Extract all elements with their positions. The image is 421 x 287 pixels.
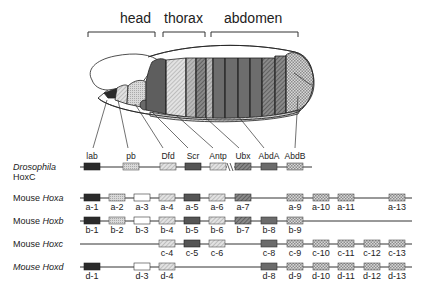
gene-label-a13: a-13 — [382, 202, 412, 212]
abdomen-bracket — [211, 32, 298, 37]
break-icon — [227, 163, 233, 171]
gene-label-a7: a-7 — [228, 202, 258, 212]
gene-label-lab: lab — [77, 151, 107, 161]
hox-diagram — [0, 0, 421, 287]
gene-box-pb — [123, 163, 139, 170]
row-label-hoxc: Mouse Hoxc — [13, 239, 63, 249]
gene-box-antp — [210, 163, 226, 170]
gene-box-dfd — [160, 163, 176, 170]
row-label-drosophila: Drosophila HoxC — [13, 162, 56, 182]
gene-label-d13: d-13 — [382, 271, 412, 281]
gene-box-scr — [185, 163, 201, 170]
row-label-hoxb: Mouse Hoxb — [13, 216, 64, 226]
gene-label-a11: a-11 — [331, 202, 361, 212]
gene-label-c13: c-13 — [382, 248, 412, 258]
region-label-thorax: thorax — [164, 10, 203, 26]
gene-label-d4: d-4 — [152, 271, 182, 281]
region-label-abdomen: abdomen — [224, 10, 282, 26]
row-label-hoxd: Mouse Hoxd — [13, 262, 64, 272]
embryo-illustration — [90, 45, 314, 121]
gene-label-b9: b-9 — [280, 225, 310, 235]
mouse-hoxa-cluster — [80, 194, 412, 201]
mouse-hoxb-cluster — [80, 217, 412, 224]
row-label-hoxa: Mouse Hoxa — [13, 193, 64, 203]
head-bracket — [88, 32, 155, 37]
gene-box-abdb — [287, 163, 303, 170]
thorax-bracket — [163, 32, 205, 37]
region-brackets — [88, 32, 298, 37]
region-label-head: head — [120, 10, 151, 26]
gene-box-ubx — [235, 163, 251, 170]
mouse-hoxc-cluster — [80, 240, 412, 247]
gene-label-pb: pb — [116, 151, 146, 161]
drosophila-hoxc-cluster — [80, 163, 312, 171]
gene-label-abdb: AbdB — [280, 151, 310, 161]
gene-label-c6: c-6 — [202, 248, 232, 258]
gene-box-lab — [84, 163, 100, 170]
gene-label-d1: d-1 — [77, 271, 107, 281]
gene-box-abda — [261, 163, 277, 170]
mouse-hoxd-cluster — [80, 263, 412, 270]
